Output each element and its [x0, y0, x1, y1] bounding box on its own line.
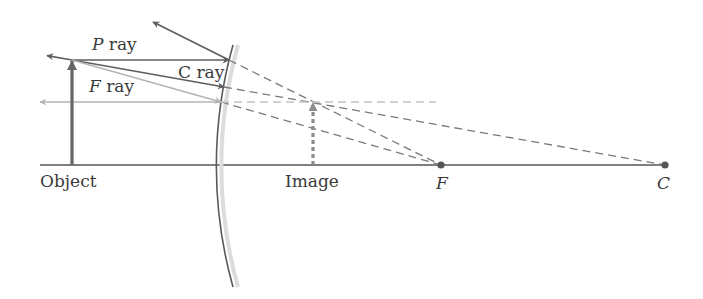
- c-ray-virtual-extension: [224, 87, 665, 165]
- p-ray-label: P ray: [91, 34, 137, 54]
- convex-mirror-ray-diagram: P ray C ray F ray Object Image F C: [0, 0, 703, 299]
- object-label: Object: [40, 171, 97, 191]
- image-label: Image: [285, 171, 339, 191]
- c-ray-reflected: [47, 56, 72, 60]
- f-ray-label: F ray: [88, 76, 134, 96]
- center-of-curvature-label: C: [657, 173, 670, 193]
- focal-point-dot: [437, 161, 444, 168]
- diagram-canvas: P ray C ray F ray Object Image F C: [0, 0, 703, 299]
- p-ray-virtual-extension: [229, 60, 441, 165]
- f-ray-virtual-extension: [221, 102, 441, 165]
- center-of-curvature-dot: [661, 161, 668, 168]
- p-ray-reflected: [153, 22, 229, 60]
- c-ray-label: C ray: [178, 62, 225, 82]
- focal-point-label: F: [435, 173, 449, 193]
